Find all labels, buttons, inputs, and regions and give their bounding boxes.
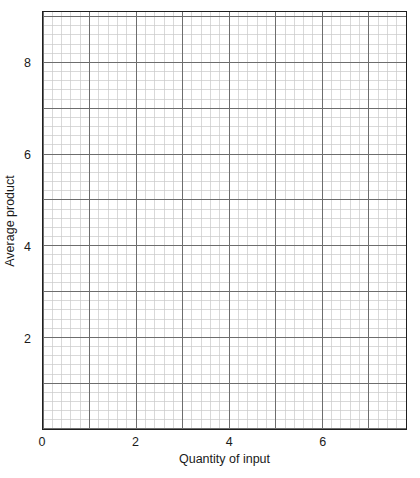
x-axis-title: Quantity of input — [42, 452, 407, 466]
major-gridlines — [43, 12, 406, 429]
y-axis-title-text: Average product — [3, 175, 17, 267]
y-tick-label-6: 6 — [24, 148, 31, 161]
y-tick-label-2: 2 — [24, 333, 31, 346]
x-tick-label-0: 0 — [39, 436, 46, 449]
x-tick-label-4: 4 — [226, 436, 233, 449]
plot-area — [42, 11, 407, 430]
x-tick-label-6: 6 — [319, 436, 326, 449]
minor-gridlines — [43, 12, 406, 429]
chart-figure: 0 2 4 6 2 4 6 8 Quantity of input Averag… — [0, 0, 420, 478]
y-tick-label-8: 8 — [24, 56, 31, 69]
y-axis-title: Average product — [0, 11, 20, 430]
y-tick-label-4: 4 — [24, 241, 31, 254]
x-tick-label-2: 2 — [132, 436, 139, 449]
